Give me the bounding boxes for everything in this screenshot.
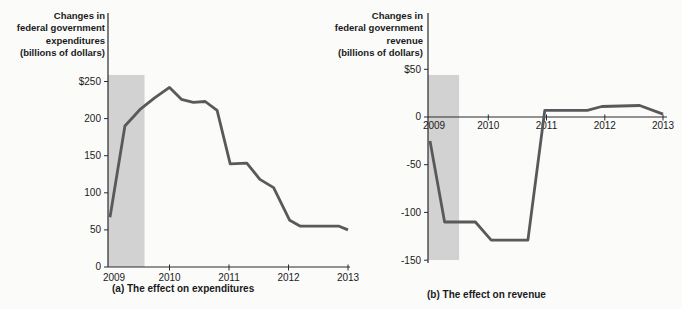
chart-a-y-tick-label: 150	[84, 150, 101, 161]
chart-a-x-tick-label: 2010	[158, 272, 181, 283]
chart-a-x-tick-label: 2013	[337, 272, 360, 283]
chart-b-y-tick-label: 0	[415, 111, 421, 122]
chart-a-y-tick-label: 0	[95, 261, 101, 272]
chart-b-y-tick-label: -50	[407, 159, 422, 170]
chart-a-shaded-band	[108, 75, 145, 267]
chart-a-title: Changes in federal government expenditur…	[0, 10, 105, 60]
chart-b-y-tick-label: -150	[401, 255, 421, 266]
chart-b-x-tick-label: 2011	[536, 120, 558, 131]
chart-b-x-tick-label: 2013	[652, 120, 675, 131]
chart-b-x-tick-label: 2012	[594, 120, 617, 131]
chart-b-y-tick-label: $50	[404, 64, 421, 75]
chart-a-x-tick-label: 2009	[103, 272, 126, 283]
chart-b-shaded-band	[428, 75, 459, 260]
chart-a-x-tick-label: 2012	[277, 272, 300, 283]
chart-b-x-tick-label: 2009	[423, 120, 446, 131]
textbook-figure: 050100150200$25020092010201120122013-150…	[0, 0, 682, 309]
chart-a-y-tick-label: $250	[79, 76, 102, 87]
chart-a-caption: (a) The effect on expenditures	[112, 283, 254, 294]
chart-b: -150-100-500$5020092010201120122013	[401, 13, 675, 266]
chart-a-y-ticks: 050100150200$250	[79, 76, 108, 273]
chart-a-y-tick-label: 200	[84, 113, 101, 124]
chart-b-x-tick-label: 2010	[477, 120, 500, 131]
chart-b-y-tick-label: -100	[401, 207, 421, 218]
chart-a-data-line	[110, 87, 348, 230]
chart-a-y-tick-label: 50	[90, 224, 102, 235]
chart-a-y-tick-label: 100	[84, 187, 101, 198]
chart-b-y-ticks: -150-100-500$50	[401, 64, 428, 266]
chart-b-caption: (b) The effect on revenue	[427, 289, 546, 300]
chart-a-x-tick-label: 2011	[218, 272, 240, 283]
chart-b-title: Changes in federal government revenue (b…	[296, 10, 423, 60]
